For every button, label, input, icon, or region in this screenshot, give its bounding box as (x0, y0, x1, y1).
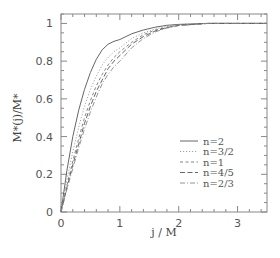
y-tick-label: 0.8 (36, 55, 54, 68)
curve-n-4-5 (61, 23, 267, 212)
x-tick-label: 1 (116, 217, 123, 230)
y-tick-label: 1 (46, 17, 53, 30)
curve-n-2 (61, 23, 267, 212)
legend: n=2n=3/2n=1n=4/5n=2/3 (180, 136, 234, 189)
x-tick-labels: 0123 (58, 217, 242, 230)
x-axis-label: j / M (149, 226, 176, 239)
curve-n-3-2 (61, 23, 267, 212)
legend-label: n=2 (203, 136, 224, 147)
y-tick-label: 0.2 (36, 168, 54, 181)
x-tick-label: 0 (58, 217, 65, 230)
chart: 0123 00.20.40.60.81 n=2n=3/2n=1n=4/5n=2/… (0, 0, 280, 258)
curve-n-2-3 (61, 23, 267, 212)
curve-n-1 (61, 23, 267, 212)
legend-label: n=1 (203, 157, 224, 168)
legend-label: n=4/5 (203, 167, 234, 178)
axis-ticks (61, 14, 267, 212)
plot-frame (61, 14, 267, 212)
y-tick-label: 0.4 (36, 131, 54, 144)
y-tick-label: 0.6 (36, 93, 54, 106)
legend-label: n=2/3 (203, 178, 234, 189)
curves (61, 23, 267, 212)
y-axis-label: M*(j)/M* (11, 93, 24, 143)
y-tick-labels: 00.20.40.60.81 (36, 17, 54, 219)
x-tick-label: 3 (234, 217, 241, 230)
y-tick-label: 0 (46, 206, 53, 219)
legend-label: n=3/2 (203, 146, 234, 157)
